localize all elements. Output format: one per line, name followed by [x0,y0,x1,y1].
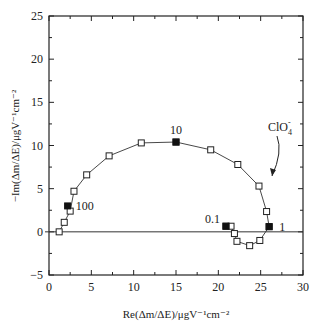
svg-text:ClO4-: ClO4- [268,118,292,137]
svg-text:10: 10 [170,123,182,137]
svg-text:−5: −5 [30,268,43,282]
nyquist-chart: 051015202530−50510152025 1001010.1 ClO4-… [0,0,319,322]
svg-text:0: 0 [37,225,43,239]
x-axis-label: Re(Δm/ΔE)/μgV⁻¹cm⁻² [123,308,230,321]
svg-text:0.1: 0.1 [205,212,220,226]
svg-text:30: 30 [297,280,309,294]
svg-text:20: 20 [31,52,43,66]
axis-ticks: 051015202530−50510152025 [30,9,309,294]
svg-text:25: 25 [255,280,267,294]
svg-text:25: 25 [31,9,43,23]
svg-text:20: 20 [212,280,224,294]
y-axis-label: −Im(Δm/ΔE)/μgV⁻¹cm⁻² [9,89,22,202]
svg-text:15: 15 [170,280,182,294]
svg-text:100: 100 [76,199,94,213]
svg-text:15: 15 [31,95,43,109]
anion-annotation: ClO4- [268,118,292,176]
svg-text:5: 5 [88,280,94,294]
svg-text:10: 10 [31,139,43,153]
svg-text:10: 10 [128,280,140,294]
svg-text:0: 0 [46,280,52,294]
svg-text:1: 1 [279,220,285,234]
frequency-labels: 1001010.1 [76,123,286,234]
svg-text:5: 5 [37,182,43,196]
